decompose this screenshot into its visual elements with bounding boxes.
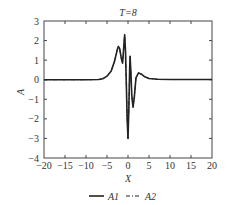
legend-label-a1: A1	[107, 191, 119, 202]
y-tick-label: 2	[34, 35, 39, 46]
legend-label-a2: A2	[144, 191, 156, 202]
line-chart: T=8 −20−15−10−505101520 −4−3−2−10123 X A…	[0, 0, 230, 205]
x-tick-label: 20	[207, 160, 217, 171]
series-line-a2	[44, 35, 212, 139]
y-tick-label: 0	[34, 74, 39, 85]
x-axis-label: X	[124, 173, 132, 184]
y-tick-label: −3	[28, 133, 39, 144]
x-tick-label: 10	[165, 160, 175, 171]
x-tick-label: −15	[57, 160, 73, 171]
chart-title: T=8	[119, 7, 136, 18]
y-tick-label: 1	[34, 55, 39, 66]
x-tick-label: 15	[186, 160, 196, 171]
y-axis-ticks: −4−3−2−10123	[28, 16, 212, 164]
y-tick-label: −1	[28, 94, 39, 105]
series-layer	[44, 35, 212, 139]
y-tick-label: −4	[28, 153, 39, 164]
x-tick-label: −5	[102, 160, 113, 171]
y-axis-label: A	[15, 88, 26, 96]
x-tick-label: 0	[126, 160, 131, 171]
x-tick-label: 5	[147, 160, 152, 171]
legend: A1 A2	[89, 191, 156, 202]
x-tick-label: −10	[78, 160, 94, 171]
y-tick-label: −2	[28, 113, 39, 124]
y-tick-label: 3	[34, 16, 39, 27]
